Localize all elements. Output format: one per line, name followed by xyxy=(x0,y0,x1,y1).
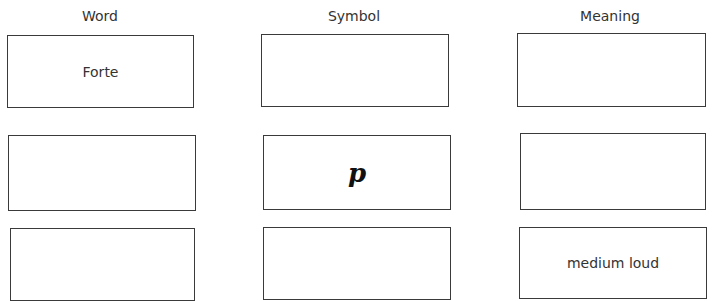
word-box-1[interactable]: Forte xyxy=(7,35,194,108)
meaning-text-3: medium loud xyxy=(567,255,659,271)
word-box-2[interactable] xyxy=(8,135,196,211)
symbol-box-2[interactable]: p xyxy=(263,135,451,210)
symbol-text-2: p xyxy=(348,158,366,188)
header-meaning: Meaning xyxy=(515,8,705,24)
word-text-1: Forte xyxy=(83,64,119,80)
word-box-3[interactable] xyxy=(10,228,195,301)
symbol-box-3[interactable] xyxy=(263,227,451,300)
header-symbol: Symbol xyxy=(259,8,449,24)
symbol-box-1[interactable] xyxy=(261,34,449,107)
header-word: Word xyxy=(5,8,195,24)
meaning-box-2[interactable] xyxy=(520,133,706,210)
meaning-box-1[interactable] xyxy=(517,33,706,107)
meaning-box-3[interactable]: medium loud xyxy=(519,227,707,299)
